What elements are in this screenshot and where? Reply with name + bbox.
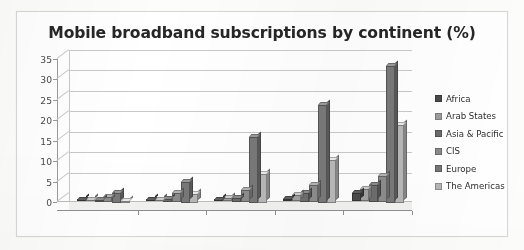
y-tick-label: 5 [46,176,52,187]
bar-side [258,132,261,200]
bar-asia-pacific-2007 [232,198,241,202]
gridline-riser [57,50,69,59]
legend-swatch-icon [435,165,442,172]
bar-arab-states-2006 [155,200,164,202]
bar-asia-pacific-2006 [163,199,172,201]
legend-item-cis[interactable]: CIS [435,143,523,161]
y-tick-mark [53,161,57,162]
legend-item-asia-pacific[interactable]: Asia & Pacific [435,125,523,143]
bar-group-inner [206,59,275,211]
legend-label: Africa [446,94,471,104]
bar-side [336,155,339,200]
chart-title: Mobile broadband subscriptions by contin… [17,24,507,42]
y-tick-mark [53,141,57,142]
bar-arab-states-2005 [86,200,95,201]
bar-face [163,199,172,201]
bar-face [283,199,292,201]
bar-side [267,169,270,200]
legend-swatch-icon [435,95,442,102]
x-tick-mark [138,211,139,215]
y-tick-mark [53,182,57,183]
screenshot-page: Mobile broadband subscriptions by contin… [0,0,524,250]
x-tick-mark [412,211,413,215]
bar-face [223,198,232,201]
chart-frame: Mobile broadband subscriptions by contin… [16,11,508,237]
bar-group-inner [343,59,412,211]
bar-asia-pacific-2005 [95,200,104,202]
legend-item-the-americas[interactable]: The Americas [435,178,523,196]
bar-group-2007 [206,59,275,211]
bar-group-2005 [69,59,138,211]
gridline-riser [57,173,69,182]
plot-area: 05101520253035 20052006200720082009 [57,59,412,211]
legend-item-europe[interactable]: Europe [435,160,523,178]
legend-label: The Americas [446,181,505,191]
legend-label: Asia & Pacific [446,129,504,139]
bar-side [404,120,407,200]
chart-legend: AfricaArab StatesAsia & PacificCISEurope… [435,90,523,195]
y-tick-mark [53,59,57,60]
bar-arab-states-2007 [223,198,232,201]
bar-group-inner [69,59,138,211]
bar-the-americas-2005 [121,201,130,203]
y-tick-label: 10 [40,156,52,167]
legend-swatch-icon [435,148,442,155]
legend-item-arab-states[interactable]: Arab States [435,108,523,126]
legend-item-africa[interactable]: Africa [435,90,523,108]
y-tick-label: 25 [40,94,52,105]
y-tick-label: 15 [40,135,52,146]
y-axis-line [57,59,58,211]
bar-africa-2006 [146,200,155,201]
bar-group-2009 [343,59,412,211]
y-tick-mark [53,100,57,101]
gridline-riser [57,132,69,141]
bar-top-cap [352,190,364,193]
y-tick-label: 35 [40,54,52,65]
bar-face [352,193,361,201]
bar-face [121,201,130,203]
legend-swatch-icon [435,130,442,137]
legend-swatch-icon [435,183,442,190]
gridline-riser [57,91,69,100]
bar-africa-2007 [214,200,223,201]
y-tick-label: 30 [40,74,52,85]
x-tick-mark [275,211,276,215]
bar-top-cap [318,102,330,105]
bar-group-inner [138,59,207,211]
bar-africa-2008 [283,199,292,201]
y-tick-mark [53,79,57,80]
y-tick-mark [53,120,57,121]
gridline-riser [57,70,69,79]
y-tick-label: 20 [40,115,52,126]
gridline-riser [57,152,69,161]
gridline-riser [57,111,69,120]
bar-africa-2009 [352,193,361,201]
bar-group-2008 [275,59,344,211]
legend-label: CIS [446,146,460,156]
legend-swatch-icon [435,113,442,120]
bar-face [232,198,241,202]
bar-group-2006 [138,59,207,211]
legend-label: Arab States [446,111,496,121]
bar-africa-2005 [77,200,86,201]
gridline [69,50,412,51]
x-tick-mark [206,211,207,215]
bar-side [327,99,330,200]
bar-top-cap [241,187,253,190]
bar-face [95,200,104,202]
legend-label: Europe [446,164,476,174]
bar-group-inner [275,59,344,211]
y-tick-label: 0 [46,197,52,208]
x-tick-mark [343,211,344,215]
